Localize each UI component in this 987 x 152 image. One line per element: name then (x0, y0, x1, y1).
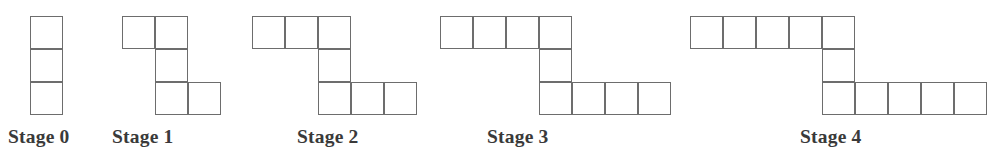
square-cell (539, 82, 572, 115)
square-cell (539, 16, 572, 49)
stage-grid-2 (252, 16, 417, 115)
square-cell (440, 16, 473, 49)
square-cell (572, 82, 605, 115)
square-cell (318, 49, 351, 82)
square-cell (855, 82, 888, 115)
stage-grid-1 (122, 16, 221, 115)
square-cell (318, 16, 351, 49)
stage-label-2: Stage 2 (297, 127, 359, 147)
square-cell (30, 49, 63, 82)
square-cell (473, 16, 506, 49)
square-cell (351, 82, 384, 115)
square-cell (188, 82, 221, 115)
square-cell (318, 82, 351, 115)
stage-grid-0 (30, 16, 63, 115)
square-cell (30, 82, 63, 115)
stage-figure-0 (30, 16, 63, 115)
square-cell (252, 16, 285, 49)
stage-figure-3 (440, 16, 671, 115)
stage-label-4: Stage 4 (800, 127, 862, 147)
square-cell (155, 16, 188, 49)
square-cell (605, 82, 638, 115)
square-cell (384, 82, 417, 115)
square-cell (888, 82, 921, 115)
stage-figure-2 (252, 16, 417, 115)
square-cell (122, 16, 155, 49)
square-cell (285, 16, 318, 49)
square-cell (155, 82, 188, 115)
square-cell (638, 82, 671, 115)
square-cell (822, 16, 855, 49)
stage-grid-4 (690, 16, 987, 115)
stage-label-1: Stage 1 (112, 127, 174, 147)
square-cell (506, 16, 539, 49)
square-cell (690, 16, 723, 49)
square-cell (921, 82, 954, 115)
stage-figure-1 (122, 16, 221, 115)
square-cell (822, 49, 855, 82)
square-cell (30, 16, 63, 49)
square-cell (954, 82, 987, 115)
square-cell (789, 16, 822, 49)
square-cell (723, 16, 756, 49)
stage-label-0: Stage 0 (8, 127, 70, 147)
stage-grid-3 (440, 16, 671, 115)
square-cell (539, 49, 572, 82)
square-cell (822, 82, 855, 115)
stage-figure-4 (690, 16, 987, 115)
stage-label-3: Stage 3 (487, 127, 549, 147)
square-cell (155, 49, 188, 82)
square-cell (756, 16, 789, 49)
